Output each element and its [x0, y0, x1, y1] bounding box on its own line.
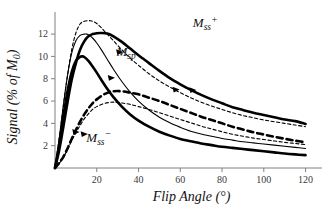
y-tick-label: 12	[38, 28, 48, 39]
y-axis-title: Signal (% of M0)	[5, 49, 22, 144]
x-axis-title: Flip Angle (°)	[152, 189, 231, 205]
annotation-mss-plus: Mss+	[192, 14, 218, 32]
series-curve	[55, 56, 306, 168]
x-tick-label: 60	[175, 174, 185, 185]
x-tick-label: 20	[92, 174, 102, 185]
x-tick-label: 100	[256, 174, 271, 185]
curve-direction-marker	[108, 75, 115, 81]
y-tick-label: 6	[43, 95, 48, 106]
x-tick-label: 40	[134, 174, 144, 185]
series-curve	[55, 34, 306, 168]
y-tick-label: 4	[43, 118, 48, 129]
svg-text:Mss+: Mss+	[192, 14, 218, 32]
y-tick-label: 10	[38, 51, 48, 62]
figure-chart: 2468101220406080100120Flip Angle (°)Sign…	[0, 0, 330, 206]
y-tick-label: 2	[43, 140, 48, 151]
annotation-mss-minus: Mss−	[85, 128, 111, 146]
svg-text:Mss−: Mss−	[85, 128, 111, 146]
chart-canvas: 2468101220406080100120Flip Angle (°)Sign…	[0, 0, 330, 206]
y-tick-label: 8	[43, 73, 48, 84]
x-tick-label: 80	[217, 174, 227, 185]
series-curve	[55, 33, 306, 168]
annotation-msp: Msp	[115, 44, 135, 61]
series-curve	[55, 21, 306, 168]
x-tick-label: 120	[298, 174, 313, 185]
svg-text:Flip Angle (°): Flip Angle (°)	[152, 189, 231, 205]
svg-text:Signal (% of M0): Signal (% of M0)	[5, 49, 22, 144]
svg-text:Msp: Msp	[115, 44, 135, 61]
